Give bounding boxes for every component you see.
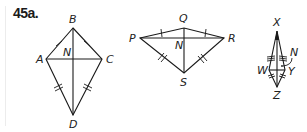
intersection-label-n: N [290,46,298,59]
vertex-label-q: Q [179,12,188,25]
vertex-label-r: R [228,32,236,45]
vertex-label-p: P [129,32,136,45]
intersection-label-n: N [63,46,71,59]
vertex-label-z: Z [272,89,281,102]
kite-abcd: B A C D N [35,13,114,131]
vertex-label-y: Y [288,65,296,78]
vertex-label-c: C [106,53,114,66]
vertex-label-a: A [35,53,44,66]
kite-diagrams: B A C D N Q P R S N [0,0,307,132]
vertex-label-b: B [69,13,77,26]
kite-pqrs: Q P R S N [129,12,236,89]
vertex-label-w: W [257,64,269,77]
vertex-label-s: S [180,76,187,89]
intersection-label-n: N [175,39,183,52]
vertex-label-x: X [272,16,281,29]
vertex-label-d: D [69,118,77,131]
figure-panel: 45a. B A C D N [0,0,307,132]
kite-xwzy: X W Y Z N [257,16,298,102]
